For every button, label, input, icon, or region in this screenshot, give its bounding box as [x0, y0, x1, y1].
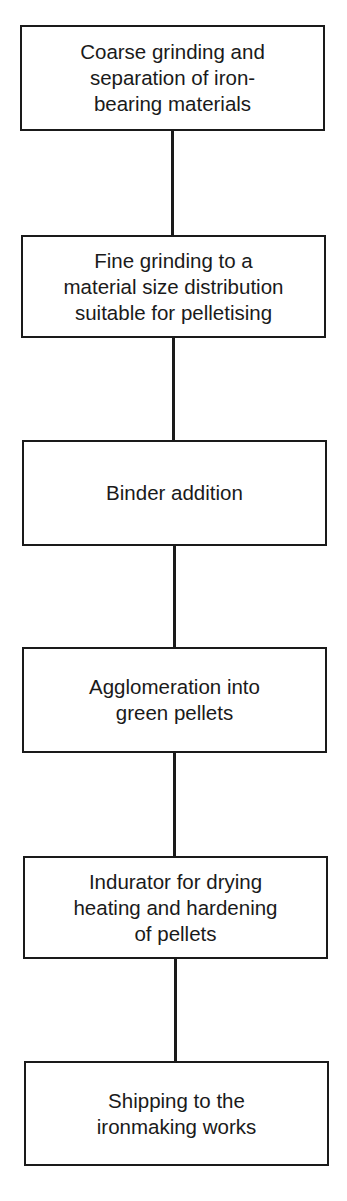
- connector-line: [173, 753, 176, 857]
- step-indurator: Indurator for drying heating and hardeni…: [23, 856, 328, 959]
- step-agglomeration: Agglomeration into green pellets: [22, 647, 327, 753]
- connector-line: [173, 546, 176, 648]
- step-label: Coarse grinding and separation of iron- …: [80, 39, 265, 117]
- step-label: Agglomeration into green pellets: [89, 674, 260, 726]
- connector-line: [174, 959, 177, 1062]
- step-coarse-grinding: Coarse grinding and separation of iron- …: [20, 25, 325, 131]
- step-label: Binder addition: [106, 480, 243, 506]
- step-label: Fine grinding to a material size distrib…: [64, 248, 284, 326]
- step-binder-addition: Binder addition: [22, 440, 327, 546]
- connector-line: [172, 338, 175, 441]
- step-shipping: Shipping to the ironmaking works: [24, 1061, 329, 1166]
- step-fine-grinding: Fine grinding to a material size distrib…: [21, 235, 326, 338]
- step-label: Indurator for drying heating and hardeni…: [73, 869, 277, 947]
- step-label: Shipping to the ironmaking works: [97, 1088, 257, 1140]
- connector-line: [171, 131, 174, 235]
